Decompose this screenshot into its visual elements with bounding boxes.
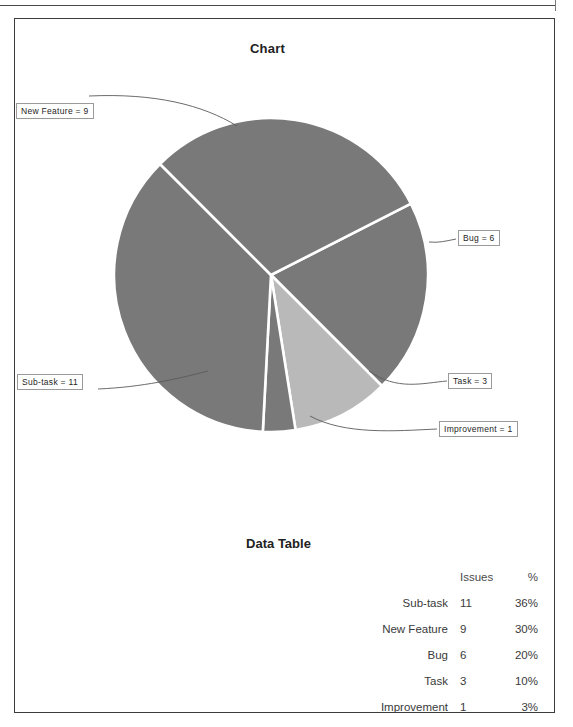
table-header-pct: % — [494, 564, 538, 590]
table-cell-pct: 3% — [494, 694, 538, 720]
table-cell-name: Improvement — [352, 694, 458, 720]
table-cell-pct: 36% — [494, 590, 538, 616]
table-row: Task 3 10% — [352, 668, 538, 694]
table-cell-pct: 30% — [494, 616, 538, 642]
data-table: Issues % Sub-task 11 36% New Feature 9 3… — [352, 564, 538, 720]
table-cell-name: Task — [352, 668, 458, 694]
table-cell-pct: 20% — [494, 642, 538, 668]
leader-line-bug — [429, 239, 456, 242]
table-cell-issues: 11 — [458, 590, 494, 616]
table-header-issues: Issues — [458, 564, 494, 590]
table-row: Sub-task 11 36% — [352, 590, 538, 616]
table-cell-issues: 3 — [458, 668, 494, 694]
table-row: New Feature 9 30% — [352, 616, 538, 642]
callout-new-feature[interactable]: New Feature = 9 — [16, 103, 94, 119]
page-top-rule-tick — [555, 0, 556, 11]
leader-line-new-feature — [89, 96, 237, 126]
callout-bug[interactable]: Bug = 6 — [458, 230, 500, 246]
report-frame: Chart New Feature = 9 — [14, 18, 555, 713]
table-body: Sub-task 11 36% New Feature 9 30% Bug 6 … — [352, 590, 538, 720]
table-cell-name: Sub-task — [352, 590, 458, 616]
table-row: Bug 6 20% — [352, 642, 538, 668]
table-cell-issues: 9 — [458, 616, 494, 642]
table-header-row: Issues % — [352, 564, 538, 590]
table-cell-pct: 10% — [494, 668, 538, 694]
page-top-rule — [0, 5, 556, 6]
table-cell-issues: 1 — [458, 694, 494, 720]
callout-task[interactable]: Task = 3 — [448, 373, 492, 389]
table-row: Improvement 1 3% — [352, 694, 538, 720]
table-cell-name: Bug — [352, 642, 458, 668]
callout-improvement[interactable]: Improvement = 1 — [439, 421, 518, 437]
table-header-name — [352, 564, 458, 590]
table-cell-name: New Feature — [352, 616, 458, 642]
callout-sub-task[interactable]: Sub-task = 11 — [17, 374, 83, 390]
table-cell-issues: 6 — [458, 642, 494, 668]
report-page: Chart New Feature = 9 — [0, 0, 573, 727]
data-table-title: Data Table — [15, 536, 556, 551]
